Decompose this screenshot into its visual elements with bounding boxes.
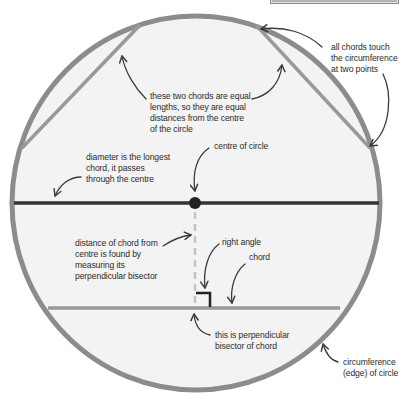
- label-equal-chords: these two chords are equal lengths, so t…: [150, 91, 251, 135]
- centre-dot: [189, 197, 201, 209]
- label-right-angle: right angle: [222, 237, 261, 248]
- label-diameter: diameter is the longest chord, it passes…: [86, 152, 170, 185]
- arrow-circumference: [323, 344, 338, 362]
- label-perpendicular-bisector: this is perpendicular bisector of chord: [215, 330, 289, 352]
- label-chords-touch-circumference: all chords touch the circumference at tw…: [331, 42, 398, 75]
- label-chord: chord: [249, 252, 270, 263]
- label-centre-of-circle: centre of circle: [214, 141, 268, 152]
- label-circumference: circumference (edge) of circle: [343, 357, 398, 379]
- arrow-chords-touch-right: [370, 74, 389, 146]
- label-distance-of-chord: distance of chord from centre is found b…: [75, 238, 158, 282]
